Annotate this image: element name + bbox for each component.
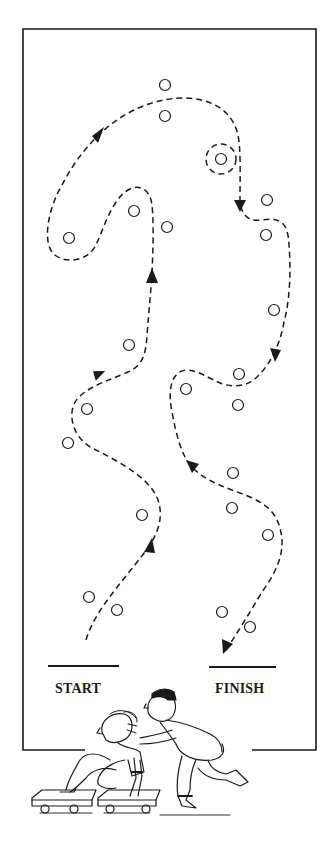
arrow-icon bbox=[270, 348, 281, 362]
cone-marker bbox=[233, 400, 244, 411]
cone-marker bbox=[216, 154, 227, 165]
cone-marker bbox=[63, 438, 74, 449]
route-path bbox=[47, 98, 289, 650]
cone-marker bbox=[217, 607, 228, 618]
arrow-icon bbox=[146, 268, 158, 283]
arrow-icon bbox=[234, 200, 246, 212]
cone-marker bbox=[112, 605, 123, 616]
cone-marker bbox=[245, 622, 256, 633]
cone-marker bbox=[124, 340, 135, 351]
cone-marker bbox=[64, 233, 75, 244]
cone-marker bbox=[181, 384, 192, 395]
cone-marker bbox=[129, 206, 140, 217]
scooter-board-relay-illustration bbox=[32, 689, 248, 815]
cone-marker bbox=[82, 404, 93, 415]
cone-marker bbox=[269, 305, 280, 316]
course-diagram bbox=[0, 0, 334, 842]
cone-marker bbox=[234, 369, 245, 380]
cone-marker bbox=[228, 468, 239, 479]
finish-label: FINISH bbox=[215, 682, 264, 696]
cones bbox=[63, 80, 280, 633]
cone-marker bbox=[227, 503, 238, 514]
cone-marker bbox=[262, 195, 273, 206]
cone-marker bbox=[160, 80, 171, 91]
cone-marker bbox=[84, 592, 95, 603]
cone-marker bbox=[162, 222, 173, 233]
cone-marker bbox=[137, 510, 148, 521]
cone-marker bbox=[263, 530, 274, 541]
arrow-icon bbox=[93, 369, 107, 381]
cone-marker bbox=[261, 230, 272, 241]
course-frame bbox=[23, 29, 316, 750]
cone-marker bbox=[160, 111, 171, 122]
start-label: START bbox=[55, 682, 101, 696]
